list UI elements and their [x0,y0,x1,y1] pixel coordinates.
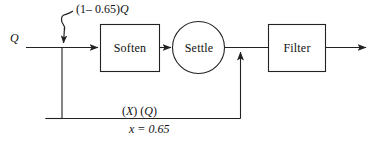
block-label-filter: Filter [268,41,326,56]
top-expression-label: (1– 0.65)Q [76,2,129,17]
callout-hook-arrow [64,28,65,43]
feedback-product-x: X [126,104,133,118]
feedback-product-q: Q [144,104,153,118]
diagram-graphics [0,0,379,156]
block-label-settle: Settle [168,41,230,56]
block-label-soften: Soften [100,41,160,56]
diagram-canvas: Soften Settle Filter Q (1– 0.65)Q (X) (Q… [0,0,379,156]
top-expression-variable: Q [120,2,129,16]
feedback-product-label: (X) (Q) [122,104,157,119]
input-label-q: Q [10,31,19,46]
x-value-label: x = 0.65 [129,122,169,137]
top-expression-prefix: (1– 0.65) [76,2,120,16]
callout-hook-curve [61,11,73,30]
